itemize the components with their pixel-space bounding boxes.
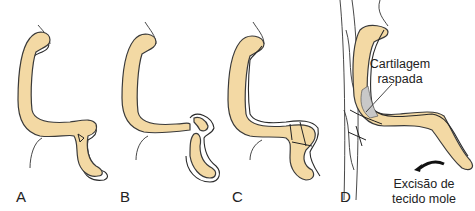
panel-label-c: C — [232, 188, 243, 205]
annotation-excision-line2: tecido mole — [378, 192, 470, 207]
panel-label-b: B — [120, 188, 130, 205]
panel-b-drawing — [122, 22, 219, 182]
annotation-soft-tissue-excision: Excisão de tecido mole — [378, 177, 470, 207]
ear-surgery-figure: A B C D Cartilagem raspada Excisão de te… — [0, 0, 475, 211]
panel-d-drawing — [340, 0, 472, 200]
annotation-excision-line1: Excisão de — [378, 177, 470, 192]
panel-label-a: A — [16, 188, 26, 205]
panel-label-d: D — [340, 188, 351, 205]
panel-c-drawing — [228, 22, 320, 180]
annotation-scraped-line2: raspada — [368, 72, 432, 87]
annotation-scraped-line1: Cartilagem — [368, 57, 432, 72]
annotation-scraped-cartilage: Cartilagem raspada — [368, 57, 432, 87]
panel-a-drawing — [18, 25, 107, 180]
